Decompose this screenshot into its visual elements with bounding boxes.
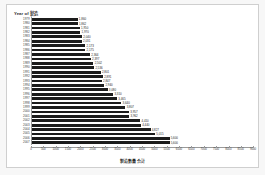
bar (32, 31, 80, 34)
bar-row: 4,440 (32, 124, 253, 127)
x-axis-tick-mark (229, 146, 230, 148)
bars-area: 1,8601,8621,9501,9702,0402,0312,1732,175… (31, 17, 253, 145)
bar-row: 3,807 (32, 106, 253, 109)
bar-row: 2,364 (32, 53, 253, 56)
y-axis-tick-label: 1992 (23, 75, 29, 78)
bar (32, 18, 78, 21)
bar (32, 124, 141, 127)
bar-row: 3,310 (32, 93, 253, 96)
y-axis-tick-label: 2000 (23, 110, 29, 113)
x-axis-tick-label: 8500 (238, 148, 244, 151)
bar-value-label: 5,015 (155, 133, 163, 136)
bar (32, 111, 129, 114)
x-axis-tick-label: 1500 (65, 148, 71, 151)
bar (32, 88, 108, 91)
y-axis-tick-label: 2007 (23, 141, 29, 144)
y-axis-tick-label: 1995 (23, 88, 29, 91)
bar-row: 1,860 (32, 18, 253, 21)
x-axis-tick-mark (80, 146, 81, 148)
x-axis-tick-mark (117, 146, 118, 148)
x-axis-tick-label: 8000 (225, 148, 231, 151)
bar-row: 4,410 (32, 119, 253, 122)
x-axis-tick-label: 7500 (213, 148, 219, 151)
bar (32, 75, 103, 78)
bar-row: 2,940 (32, 84, 253, 87)
bar-value-label: 4,440 (141, 124, 149, 127)
bar-value-label: 5,600 (170, 141, 178, 144)
bar-row: 1,950 (32, 27, 253, 30)
y-axis-tick-label: 1988 (23, 57, 29, 60)
x-axis-tick-mark (105, 146, 106, 148)
x-axis-tick-mark (191, 146, 192, 148)
x-axis-title: 製造數量合計 (7, 158, 258, 164)
bar-row: 3,640 (32, 102, 253, 105)
x-axis-tick-label: 4000 (127, 148, 133, 151)
bar-row: 2,031 (32, 40, 253, 43)
y-axis-tick-label: 2002 (23, 119, 29, 122)
x-axis-tick-label: 3500 (114, 148, 120, 151)
x-axis-tick-mark (154, 146, 155, 148)
bar-row: 1,970 (32, 31, 253, 34)
chart-title: Year of 製造 (14, 10, 38, 16)
bar-row: 2,175 (32, 49, 253, 52)
bar-row: 5,015 (32, 133, 253, 136)
bar (32, 93, 113, 96)
bar (32, 102, 121, 105)
x-axis-tick-mark (31, 146, 32, 148)
x-axis-tick-mark (179, 146, 180, 148)
y-axis-tick-label: 1993 (23, 80, 29, 83)
x-axis-tick-mark (253, 146, 254, 148)
x-axis-tick-label: 2000 (77, 148, 83, 151)
x-axis-tick-label: 7000 (201, 148, 207, 151)
x-axis-tick-label: 6500 (188, 148, 194, 151)
x-axis-tick-label: 5000 (151, 148, 157, 151)
bar (32, 133, 155, 136)
x-axis-tick-mark (241, 146, 242, 148)
y-axis-tick-label: 1983 (23, 35, 29, 38)
bar (32, 71, 101, 74)
bar (32, 84, 104, 87)
bar (32, 119, 140, 122)
bar-row: 5,600 (32, 137, 253, 140)
plot-area: 1979198019811982198319841985198619871988… (14, 17, 253, 145)
x-axis-tick-label: 4500 (139, 148, 145, 151)
x-axis-tick-mark (93, 146, 94, 148)
x-axis-ticks: 0500100015002000250030003500400045005000… (31, 148, 253, 155)
bar-value-label: 3,962 (129, 115, 137, 118)
bar (32, 49, 85, 52)
x-axis-tick-mark (43, 146, 44, 148)
bar-row: 3,962 (32, 115, 253, 118)
y-axis-tick-label: 1997 (23, 97, 29, 100)
y-axis-tick-label: 1990 (23, 66, 29, 69)
bar-row: 2,801 (32, 71, 253, 74)
bar (32, 22, 78, 25)
x-axis-tick-label: 6000 (176, 148, 182, 151)
bar-row: 2,397 (32, 58, 253, 61)
bar-row: 3,957 (32, 111, 253, 114)
bar-row: 2,891 (32, 75, 253, 78)
chart-card: Year of 製造 19791980198119821983198419851… (6, 4, 259, 168)
bar (32, 40, 82, 43)
bar (32, 128, 151, 131)
y-axis-labels: 1979198019811982198319841985198619871988… (14, 17, 31, 145)
bar (32, 35, 82, 38)
bar-row: 4,827 (32, 128, 253, 131)
x-axis-tick-label: 2500 (90, 148, 96, 151)
bar (32, 62, 93, 65)
x-axis-tick-mark (216, 146, 217, 148)
x-axis-tick-mark (204, 146, 205, 148)
bar (32, 58, 91, 61)
y-axis-tick-label: 1980 (23, 22, 29, 25)
bar-row: 3,465 (32, 97, 253, 100)
x-axis-tick-mark (130, 146, 131, 148)
bar-row: 2,040 (32, 35, 253, 38)
bar (32, 97, 117, 100)
bar-row: 5,600 (32, 141, 253, 144)
y-axis-tick-label: 2005 (23, 132, 29, 135)
x-axis-tick-mark (167, 146, 168, 148)
x-axis-tick-label: 0 (30, 148, 32, 151)
x-axis-tick-label: 1000 (53, 148, 59, 151)
x-axis-tick-mark (68, 146, 69, 148)
bar (32, 53, 90, 56)
bar-row: 2,847 (32, 80, 253, 83)
